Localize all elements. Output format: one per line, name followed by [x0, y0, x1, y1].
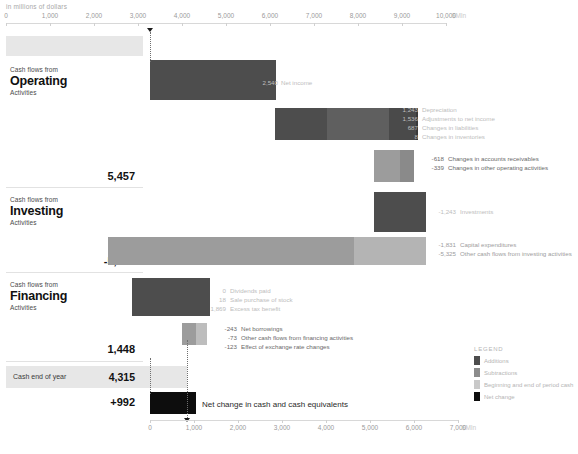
axis-tick-label: 10,000 [436, 12, 456, 19]
axis-tick-label: 5,000 [218, 12, 234, 19]
axis-tick [194, 420, 195, 423]
axis-tick-label: 6,000 [262, 12, 278, 19]
top-axis: $Mln 01,0002,0003,0004,0005,0006,0007,00… [6, 8, 446, 30]
cash-end-label: Cash end of year [13, 373, 66, 380]
axis-tick-label: 1,000 [186, 424, 202, 431]
label-text-fx-effect: Effect of exchange rate changes [241, 343, 330, 350]
bar-net-change [150, 392, 196, 414]
operating-suffix: Activities [10, 89, 37, 96]
label-value-net-borrowings: -243 [211, 325, 237, 332]
axis-tick [282, 420, 283, 423]
axis-tick [138, 23, 139, 26]
axis-tick [314, 23, 315, 26]
axis-tick [150, 420, 151, 423]
axis-tick [238, 420, 239, 423]
bottom-axis: $Mln 01,0002,0003,0004,0005,0006,0007,00… [150, 420, 458, 442]
axis-tick-label: 5,000 [362, 424, 378, 431]
axis-tick-label: 7,000 [306, 12, 322, 19]
label-text-excess-tax-benefit: Excess tax benefit [230, 305, 280, 312]
financing-subtotal: 1,448 [45, 343, 135, 355]
operating-divider [6, 187, 143, 188]
financing-suffix: Activities [10, 304, 37, 311]
axis-tick-label: 8,000 [350, 12, 366, 19]
cash-end-value: 4,315 [75, 371, 135, 383]
axis-tick [270, 23, 271, 26]
label-value-capex: -1,831 [428, 241, 456, 248]
legend-swatch-net-change [474, 392, 480, 401]
axis-tick [50, 23, 51, 26]
axis-tick-label: 9,000 [394, 12, 410, 19]
connector-cash-end [187, 340, 188, 420]
bottom-axis-line [150, 420, 458, 421]
axis-tick-label: 4,000 [174, 12, 190, 19]
legend-label-period-cash: Beginning and end of period cash [484, 382, 573, 388]
label-text-changes-liabilities: Changes in liabilities [422, 124, 478, 131]
legend-label-additions: Additions [484, 358, 509, 364]
axis-tick [402, 23, 403, 26]
bar-changes-in-accounts-receivables [374, 150, 400, 182]
axis-tick-label: 2,000 [86, 12, 102, 19]
net-change-value: +992 [45, 396, 135, 408]
financing-eyebrow: Cash flows from [10, 281, 58, 288]
waterfall-chart: in millions of dollars $Mln 01,0002,0003… [0, 0, 578, 454]
label-value-depreciation: 1,243 [392, 106, 418, 113]
label-value-changes-inventories: 8 [392, 133, 418, 140]
axis-tick-label: 4,000 [318, 424, 334, 431]
label-value-dividends-paid: 0 [200, 287, 226, 294]
axis-tick-label: 1,000 [42, 12, 58, 19]
net-change-label: Net change in cash and cash equivalents [202, 400, 348, 409]
label-value-other-financing: -73 [211, 334, 237, 341]
bar-other-cash-flows-investing [108, 237, 354, 265]
label-value-changes-liabilities: 687 [392, 124, 418, 131]
bar-changes-in-other-operating-activities [400, 150, 414, 182]
axis-tick [414, 420, 415, 423]
label-text-changes-inventories: Changes in inventories [422, 133, 485, 140]
legend-swatch-subtractions [474, 368, 480, 377]
label-text-sale-purchase-stock: Sale purchase of stock [230, 296, 293, 303]
financing-title: Financing [10, 289, 67, 303]
label-text-net-income: Net income [281, 79, 312, 86]
investing-divider [6, 272, 143, 273]
label-value-other-investing: -5,325 [428, 250, 456, 257]
label-value-excess-tax-benefit: 1,869 [200, 305, 226, 312]
label-text-accounts-receivables: Changes in accounts receivables [448, 155, 539, 162]
label-value-investments: -1,243 [428, 208, 456, 215]
axis-tick [326, 420, 327, 423]
axis-tick [182, 23, 183, 26]
axis-tick-label: 3,000 [130, 12, 146, 19]
investing-suffix: Activities [10, 219, 37, 226]
axis-tick-label: 0 [148, 424, 152, 431]
axis-tick-label: 3,000 [274, 424, 290, 431]
label-value-net-income: 2,540 [252, 79, 278, 86]
legend-label-subtractions: Subtractions [484, 370, 517, 376]
label-text-capex: Capital expenditures [460, 241, 516, 248]
bar-cash-beginning [6, 36, 143, 56]
axis-tick-label: 6,000 [406, 424, 422, 431]
axis-tick-label: 7,000 [450, 424, 466, 431]
axis-tick [6, 23, 7, 26]
axis-tick-label: 2,000 [230, 424, 246, 431]
axis-tick [458, 420, 459, 423]
financing-divider [6, 361, 143, 362]
label-text-other-operating: Changes in other operating activities [448, 164, 548, 171]
label-text-adjustments: Adjustments to net income [422, 115, 495, 122]
investing-eyebrow: Cash flows from [10, 196, 58, 203]
axis-tick [226, 23, 227, 26]
axis-tick [94, 23, 95, 26]
axis-tick [370, 420, 371, 423]
label-text-net-borrowings: Net borrowings [241, 325, 283, 332]
investing-title: Investing [10, 204, 63, 218]
label-value-sale-purchase-stock: 18 [200, 296, 226, 303]
label-value-adjustments: 1,536 [392, 115, 418, 122]
operating-title: Operating [10, 74, 67, 88]
bar-financing-additions [132, 278, 210, 316]
legend-swatch-period-cash [474, 380, 480, 389]
connector-end [150, 358, 151, 394]
label-text-other-financing: Other cash flows from financing activiti… [241, 334, 353, 341]
label-value-fx-effect: -123 [211, 343, 237, 350]
legend-swatch-additions [474, 356, 480, 365]
bar-depreciation [275, 108, 327, 140]
connector-start [150, 32, 151, 62]
label-text-dividends-paid: Dividends paid [230, 287, 271, 294]
bar-net-borrowings [182, 323, 196, 345]
